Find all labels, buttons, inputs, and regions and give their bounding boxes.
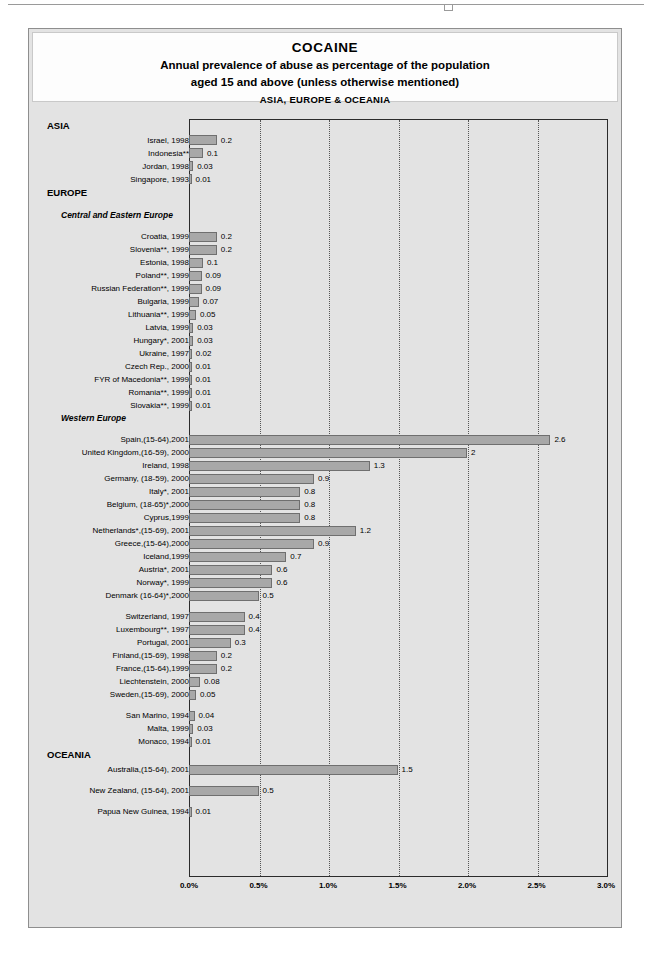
chart-row: Russian Federation**, 19990.09 (29, 282, 623, 295)
chart-row: Jordan, 19980.03 (29, 160, 623, 173)
row-category-label: Jordan, 1998 (0, 160, 189, 173)
chart-row: France,(15-64),19990.2 (29, 662, 623, 675)
bar (189, 474, 314, 484)
chart-row: United Kingdom,(16-59), 20002 (29, 446, 623, 459)
row-category-label: Australia,(15-64), 2001 (0, 763, 189, 776)
bar (189, 737, 192, 747)
bar-value-label: 0.09 (206, 269, 222, 282)
row-category-label: Indonesia** (0, 147, 189, 160)
row-category-label: Finland,(15-69), 1998 (0, 649, 189, 662)
chart-row: Papua New Guinea, 19940.01 (29, 805, 623, 818)
bar-value-label: 0.01 (196, 373, 212, 386)
x-axis-tick-label: 0.5% (249, 881, 267, 890)
row-category-label: Poland**, 1999 (0, 269, 189, 282)
chart-row: Finland,(15-69), 19980.2 (29, 649, 623, 662)
row-category-label: Portugal, 2001 (0, 636, 189, 649)
bar-value-label: 0.5 (263, 589, 274, 602)
row-category-label: Ukraine, 1997 (0, 347, 189, 360)
bar (189, 461, 370, 471)
bar (189, 500, 300, 510)
row-category-label: Slovakia**, 1999 (0, 399, 189, 412)
chart-row: Liechtenstein, 20000.08 (29, 675, 623, 688)
bar (189, 258, 203, 268)
row-category-label: Iceland,1999 (0, 550, 189, 563)
bar-value-label: 0.8 (304, 498, 315, 511)
bar-value-label: 0.1 (207, 256, 218, 269)
chart-row: Denmark (16-64)*,20000.5 (29, 589, 623, 602)
chart-row: Spain,(15-64),20012.6 (29, 433, 623, 446)
bar-value-label: 2 (471, 446, 475, 459)
chart-row: Germany, (18-59), 20000.9 (29, 472, 623, 485)
bar-value-label: 0.9 (318, 537, 329, 550)
chart-row: San Marino, 19940.04 (29, 709, 623, 722)
row-category-label: Switzerland, 1997 (0, 610, 189, 623)
bar-value-label: 0.04 (199, 709, 215, 722)
bar (189, 591, 259, 601)
row-category-label: Romania**, 1999 (0, 386, 189, 399)
bar (189, 135, 217, 145)
bar (189, 336, 193, 346)
bar-value-label: 0.03 (197, 321, 213, 334)
bar (189, 435, 550, 445)
chart-row: Singapore, 19930.01 (29, 173, 623, 186)
bar-value-label: 0.01 (196, 360, 212, 373)
bar (189, 664, 217, 674)
chart-row: Luxembourg**, 19970.4 (29, 623, 623, 636)
row-category-label: San Marino, 1994 (0, 709, 189, 722)
chart-row: Hungary*, 20010.03 (29, 334, 623, 347)
x-axis-tick-label: 2.5% (527, 881, 545, 890)
row-category-label: Hungary*, 2001 (0, 334, 189, 347)
bar-value-label: 0.01 (196, 173, 212, 186)
x-axis-tick-label: 1.5% (388, 881, 406, 890)
bar (189, 401, 192, 411)
x-axis-tick-label: 0.0% (180, 881, 198, 890)
bar-value-label: 0.8 (304, 485, 315, 498)
bar (189, 232, 217, 242)
chart-row: Czech Rep., 20000.01 (29, 360, 623, 373)
bar (189, 375, 192, 385)
bar-value-label: 0.01 (196, 399, 212, 412)
chart-row: Austria*, 20010.6 (29, 563, 623, 576)
row-category-label: United Kingdom,(16-59), 2000 (0, 446, 189, 459)
chart-row: Romania**, 19990.01 (29, 386, 623, 399)
row-category-label: Israel, 1998 (0, 134, 189, 147)
bar-value-label: 0.7 (290, 550, 301, 563)
bar (189, 552, 286, 562)
row-category-label: Cyprus,1999 (0, 511, 189, 524)
bar-value-label: 1.2 (360, 524, 371, 537)
chart-row: Latvia, 19990.03 (29, 321, 623, 334)
bar (189, 724, 193, 734)
chart-row: Iceland,19990.7 (29, 550, 623, 563)
bar-value-label: 2.6 (554, 433, 565, 446)
bar (189, 362, 192, 372)
row-category-label: Papua New Guinea, 1994 (0, 805, 189, 818)
row-category-label: Estonia, 1998 (0, 256, 189, 269)
bar-value-label: 0.5 (263, 784, 274, 797)
row-category-label: Slovenia**, 1999 (0, 243, 189, 256)
subsection-heading: Central and Eastern Europe (61, 209, 173, 222)
bar-value-label: 0.08 (204, 675, 220, 688)
chart-subtitle-line-1: Annual prevalence of abuse as percentage… (33, 58, 617, 73)
chart-row: Belgium, (18-65)*,20000.8 (29, 498, 623, 511)
chart-row: FYR of Macedonia**, 19990.01 (29, 373, 623, 386)
row-category-label: New Zealand, (15-64), 2001 (0, 784, 189, 797)
bar (189, 271, 202, 281)
bar-value-label: 0.03 (197, 334, 213, 347)
chart-region-subtitle: ASIA, EUROPE & OCEANIA (33, 94, 617, 105)
row-category-label: France,(15-64),1999 (0, 662, 189, 675)
chart-figure: COCAINE Annual prevalence of abuse as pe… (28, 28, 622, 928)
row-category-label: Belgium, (18-65)*,2000 (0, 498, 189, 511)
bar (189, 284, 202, 294)
chart-row: Ireland, 19981.3 (29, 459, 623, 472)
bar (189, 807, 192, 817)
bar-value-label: 0.1 (207, 147, 218, 160)
bar (189, 245, 217, 255)
row-category-label: Norway*, 1999 (0, 576, 189, 589)
bar (189, 487, 300, 497)
bar (189, 161, 193, 171)
chart-row: Switzerland, 19970.4 (29, 610, 623, 623)
row-category-label: Ireland, 1998 (0, 459, 189, 472)
chart-row: Norway*, 19990.6 (29, 576, 623, 589)
bar-value-label: 0.01 (196, 735, 212, 748)
chart-subtitle-line-2: aged 15 and above (unless otherwise ment… (33, 75, 617, 90)
